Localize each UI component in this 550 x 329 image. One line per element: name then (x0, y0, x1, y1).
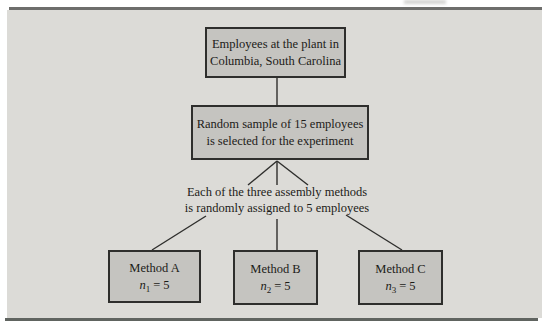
method-sample-size: n3= 5 (385, 278, 415, 295)
population-box: Employees at the plant in Columbia, Sout… (205, 27, 346, 78)
method-box: Method A n1= 5 (108, 250, 201, 303)
bottom-rule-divider (5, 318, 538, 321)
assignment-note-line2: is randomly assigned to 5 employees (157, 200, 397, 216)
sample-line1: Random sample of 15 employees (197, 116, 364, 133)
n-subscript: 1 (146, 284, 151, 294)
method-box: Method C n3= 5 (358, 250, 443, 305)
method-label: Method A (129, 260, 179, 277)
method-label: Method B (250, 261, 300, 278)
method-box: Method B n2= 5 (233, 250, 318, 305)
assignment-note: Each of the three assembly methods is ra… (157, 184, 397, 216)
sample-box: Random sample of 15 employees is selecte… (191, 105, 369, 160)
cropped-text-remnant (404, 0, 446, 4)
population-line1: Employees at the plant in (212, 36, 339, 53)
n-subscript: 2 (267, 285, 272, 295)
n-value: = 5 (399, 279, 415, 293)
method-sample-size: n2= 5 (260, 278, 290, 295)
n-value: = 5 (153, 278, 169, 292)
method-label: Method C (375, 261, 425, 278)
n-value: = 5 (274, 279, 290, 293)
method-sample-size: n1= 5 (139, 277, 169, 294)
n-subscript: 3 (392, 285, 397, 295)
population-line2: Columbia, South Carolina (210, 53, 341, 70)
assignment-note-line1: Each of the three assembly methods (157, 184, 397, 200)
sample-line2: is selected for the experiment (206, 133, 353, 150)
figure-canvas: Employees at the plant in Columbia, Sout… (0, 0, 550, 329)
